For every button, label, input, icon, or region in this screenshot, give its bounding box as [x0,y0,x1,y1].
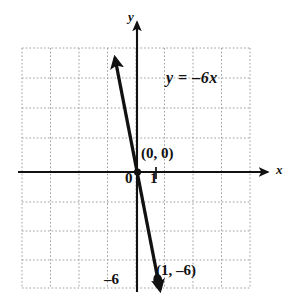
origin-tick-label: 0 [125,171,133,186]
point-label-origin: (0, 0) [141,146,174,161]
equation-label: y = –6x [166,70,218,86]
graph-figure: y x y = –6x (0, 0) 0 1 (1, –6) –6 [0,0,295,307]
point-label-1-neg6: (1, –6) [156,263,196,278]
y-axis-label: y [128,10,134,23]
x-axis-label: x [276,163,283,176]
y-tick-label-neg6: –6 [104,272,119,287]
x-tick-label-1: 1 [150,171,158,186]
point-marker-origin [134,168,141,175]
